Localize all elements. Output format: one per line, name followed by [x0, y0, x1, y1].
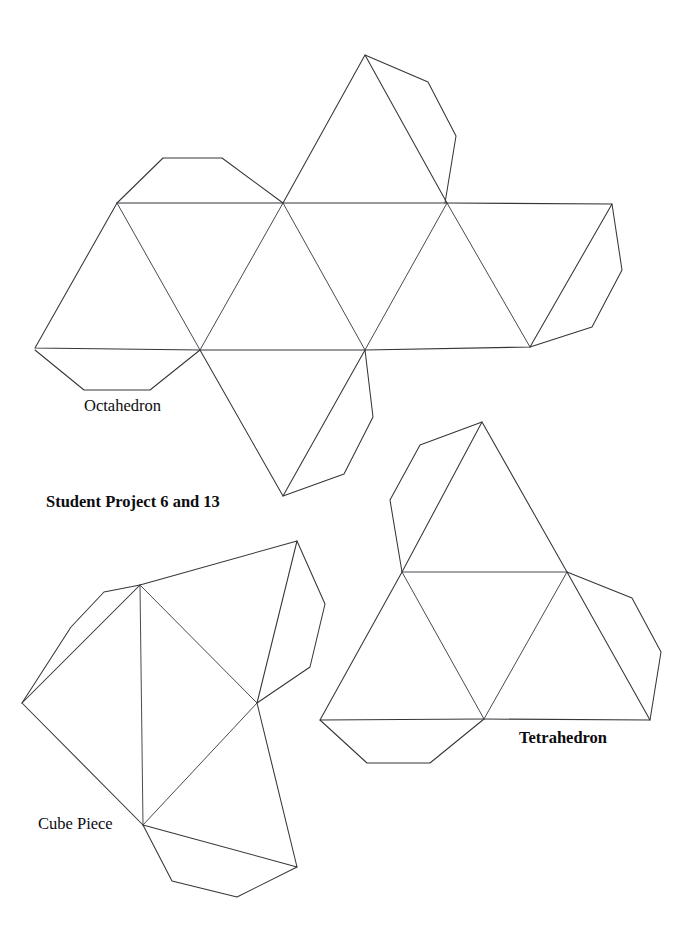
cube-piece-fold-upper-right — [140, 585, 257, 703]
octahedron-tab-bottom-left — [35, 350, 200, 390]
octahedron-face-bottom — [200, 350, 365, 496]
cube-piece-fold-upper-left — [22, 585, 140, 703]
octahedron-fold-4 — [365, 203, 447, 350]
nets-drawing — [0, 0, 694, 941]
tetrahedron-label: Tetrahedron — [519, 730, 607, 747]
octahedron-tab-right — [530, 204, 622, 347]
student-project-label: Student Project 6 and 13 — [46, 494, 220, 511]
tetrahedron-fold-left — [402, 572, 484, 719]
tetrahedron-tab-right — [567, 572, 661, 720]
octahedron-face-top — [283, 55, 447, 203]
tetrahedron-tab-bottom — [320, 719, 484, 763]
octahedron-tab-bottom-right — [283, 350, 373, 496]
octahedron-tab-top-right — [365, 55, 456, 203]
tetrahedron-net — [320, 422, 661, 763]
octahedron-fold-5 — [447, 203, 530, 347]
worksheet-page: Octahedron Student Project 6 and 13 Cube… — [0, 0, 694, 941]
octahedron-fold-3 — [283, 203, 365, 350]
tetrahedron-outline — [320, 422, 650, 720]
octahedron-fold-1 — [117, 203, 200, 350]
octahedron-fold-2 — [200, 203, 283, 350]
octahedron-tab-top-left — [117, 158, 283, 203]
tetrahedron-tab-upper-left — [390, 422, 482, 572]
cube-piece-fold-vertical — [140, 585, 143, 825]
octahedron-label: Octahedron — [84, 398, 161, 415]
tetrahedron-fold-right — [484, 572, 567, 719]
cube-piece-net — [22, 541, 325, 897]
octahedron-net — [35, 55, 622, 496]
cube-piece-fold-lower-right — [143, 703, 257, 825]
cube-piece-label: Cube Piece — [38, 816, 113, 833]
